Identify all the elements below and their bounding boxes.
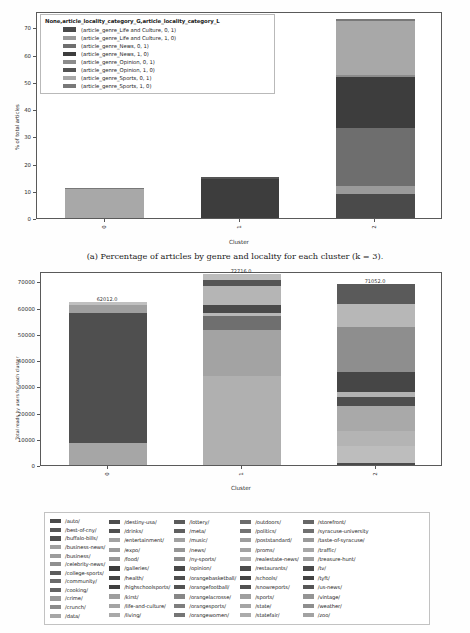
bar-total-label: 62012.0 xyxy=(97,296,118,302)
url-legend-item-label: /cooking/ xyxy=(65,587,88,593)
url-legend-item: /galleries/ xyxy=(109,564,170,573)
url-legend-item: /kirst/ xyxy=(109,592,170,601)
url-legend-item-label: /syracuse-university xyxy=(318,528,369,534)
x-tick-mark xyxy=(239,219,240,222)
x-tick-mark xyxy=(104,219,105,222)
url-legend-item: /poststandard/ xyxy=(240,536,299,545)
url-legend-column: /destiny-usa//drinks//entertainment//exp… xyxy=(107,517,172,620)
url-legend-item-label: /kirst/ xyxy=(124,594,138,600)
url-legend-item: /taste-of-syracuse/ xyxy=(303,536,369,545)
url-legend-item: /business-news/ xyxy=(50,543,105,552)
url-legend-item: /us-news/ xyxy=(303,583,369,592)
bar-segment xyxy=(336,186,414,194)
url-legend-item: /tv/ xyxy=(303,564,369,573)
figure-a-legend-item-label: (article_genre_Life and Culture, 0, 1) xyxy=(81,27,176,33)
url-legend-item: /syracuse-university xyxy=(303,526,369,535)
url-legend-item-label: /lottery/ xyxy=(189,519,209,525)
legend-swatch-icon xyxy=(240,604,251,608)
url-legend-item: /life-and-culture/ xyxy=(109,601,170,610)
bar-segment xyxy=(337,431,415,446)
url-legend-item: /traffic/ xyxy=(303,545,369,554)
legend-swatch-icon xyxy=(174,585,185,589)
legend-swatch-icon xyxy=(63,84,76,88)
url-legend-item-label: /college-sports/ xyxy=(65,570,104,576)
x-tick-label: 2 xyxy=(371,221,377,233)
legend-swatch-icon xyxy=(303,538,314,542)
url-legend-item: /realestate-news/ xyxy=(240,554,299,563)
url-legend-item-label: /life-and-culture/ xyxy=(124,603,166,609)
legend-swatch-icon xyxy=(50,545,61,549)
figure-a-caption: (a) Percentage of articles by genre and … xyxy=(0,251,470,261)
bar-segment xyxy=(69,313,147,443)
url-legend-column: /outdoors//politics//poststandard//proms… xyxy=(238,517,301,620)
url-legend-item-label: /statefair/ xyxy=(255,612,279,618)
url-legend-item-label: /realestate-news/ xyxy=(255,556,299,562)
url-legend-item: /weather/ xyxy=(303,601,369,610)
figure-a-legend-item-label: (article_genre_Opinion, 0, 1) xyxy=(81,59,155,65)
url-legend-item-label: /us-news/ xyxy=(318,584,342,590)
url-legend-item-label: /treasure-hunt/ xyxy=(318,556,356,562)
figure-a-x-axis-label: Cluster xyxy=(36,239,442,245)
legend-swatch-icon xyxy=(50,596,61,600)
url-legend-item-label: /highschoolsports/ xyxy=(124,584,170,590)
bar-segment xyxy=(337,463,415,465)
legend-swatch-icon xyxy=(240,520,251,524)
url-legend-item: /news/ xyxy=(174,545,236,554)
figure-a-legend-item: (article_genre_Life and Culture, 0, 1) xyxy=(45,26,269,34)
url-legend-item-label: /entertainment/ xyxy=(124,537,164,543)
url-legend-item: /proms/ xyxy=(240,545,299,554)
y-tick-label: 50000 xyxy=(0,332,35,338)
url-legend-item: /state/ xyxy=(240,601,299,610)
url-legend-item: /auto/ xyxy=(50,517,105,526)
url-legend-item: /crunch/ xyxy=(50,603,105,612)
url-legend-item-label: /crunch/ xyxy=(65,604,86,610)
url-legend-item-label: /celebrity-news/ xyxy=(65,561,105,567)
legend-swatch-icon xyxy=(50,562,61,566)
bar-segment xyxy=(65,189,143,218)
legend-swatch-icon xyxy=(109,538,120,542)
figure-b-x-axis-label: Cluster xyxy=(40,485,442,491)
url-legend-item: /orangefootball/ xyxy=(174,583,236,592)
url-legend-item-label: /drinks/ xyxy=(124,528,143,534)
legend-swatch-icon xyxy=(63,60,76,64)
url-legend-item-label: /tv/ xyxy=(318,565,326,571)
legend-swatch-icon xyxy=(240,557,251,561)
legend-swatch-icon xyxy=(50,571,61,575)
y-tick-label: 70 xyxy=(0,25,31,31)
figure-a-legend-item: (article_genre_Sports, 1, 0) xyxy=(45,82,269,90)
figure-a-legend-item: (article_genre_News, 0, 1) xyxy=(45,42,269,50)
bar-segment xyxy=(203,330,281,376)
url-legend-item-label: /poststandard/ xyxy=(255,537,292,543)
bar-segment xyxy=(337,284,415,304)
url-legend-item: /cooking/ xyxy=(50,586,105,595)
y-tick-label: 20 xyxy=(0,162,31,168)
url-legend-item-label: /crime/ xyxy=(65,595,83,601)
url-legend-item-label: /food/ xyxy=(124,556,138,562)
url-legend-item: /orangebasketball/ xyxy=(174,573,236,582)
y-tick-mark xyxy=(37,466,40,467)
url-legend-item-label: /restaurants/ xyxy=(255,565,287,571)
legend-swatch-icon xyxy=(109,613,120,617)
y-tick-mark xyxy=(33,219,36,220)
legend-swatch-icon xyxy=(109,594,120,598)
bar-segment xyxy=(203,376,281,465)
url-legend-item-label: /weather/ xyxy=(318,603,342,609)
legend-swatch-icon xyxy=(174,520,185,524)
url-legend-item-label: /music/ xyxy=(189,537,207,543)
bar-segment xyxy=(203,316,281,330)
bar-segment xyxy=(203,286,281,305)
legend-swatch-icon xyxy=(303,557,314,561)
legend-swatch-icon xyxy=(174,538,185,542)
url-legend-item-label: /orangebasketball/ xyxy=(189,575,236,581)
figure-a-legend-item-label: (article_genre_Sports, 1, 0) xyxy=(81,83,151,89)
figure-a-legend-item-label: (article_genre_Opinion, 1, 0) xyxy=(81,67,155,73)
url-legend-column: /auto//best-of-cny//buffalo-bills//busin… xyxy=(48,517,107,620)
url-legend-item: /entertainment/ xyxy=(109,536,170,545)
url-legend-item-label: /snowreports/ xyxy=(255,584,289,590)
url-legend-item: /expo/ xyxy=(109,545,170,554)
url-legend-item: /politics/ xyxy=(240,526,299,535)
document-page: % of total articles 010203040506070 012 … xyxy=(0,0,470,633)
figure-a-legend-item-label: (article_genre_News, 0, 1) xyxy=(81,43,149,49)
legend-swatch-icon xyxy=(63,36,76,40)
legend-swatch-icon xyxy=(174,529,185,533)
